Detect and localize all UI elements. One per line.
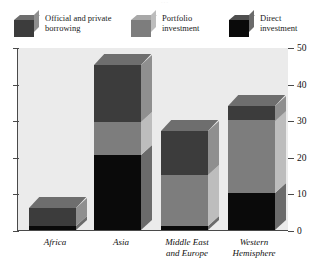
y-tick-40 — [13, 85, 19, 86]
bar-segment-portfolio-investment — [228, 120, 275, 193]
x-axis-label-western-hemisphere: Western Hemisphere — [213, 237, 295, 258]
y-axis-label-30: 30 — [297, 116, 307, 126]
y-tick-30 — [13, 121, 19, 122]
y-tick-0 — [288, 231, 294, 232]
bar-segment-direct-investment — [228, 193, 275, 230]
figure-title: … — [0, 0, 329, 4]
plot-area — [17, 48, 288, 231]
y-tick-30 — [288, 121, 294, 122]
chart-legend: Official and private borrowing Portfolio… — [0, 12, 329, 42]
y-tick-40 — [288, 85, 294, 86]
legend-item-official-private-borrowing[interactable]: Official and private borrowing — [14, 12, 111, 37]
bar-western-hemisphere[interactable] — [228, 106, 275, 230]
legend-label: Official and private borrowing — [45, 14, 111, 33]
y-axis-label-40: 40 — [297, 80, 307, 90]
legend-swatch-cube-icon — [131, 15, 157, 37]
y-tick-20 — [288, 158, 294, 159]
bar-africa[interactable] — [29, 208, 76, 230]
bar-segment-official-private-borrowing — [29, 208, 76, 226]
legend-item-direct-investment[interactable]: Direct investment — [229, 12, 297, 37]
y-axis-label-0: 0 — [297, 226, 302, 236]
y-axis-label-20: 20 — [297, 153, 307, 163]
y-tick-20 — [13, 158, 19, 159]
y-tick-10 — [288, 194, 294, 195]
legend-swatch-cube-icon — [14, 15, 40, 37]
bar-segment-official-private-borrowing — [228, 106, 275, 121]
bar-segment-portfolio-investment — [161, 175, 208, 226]
bar-segment-direct-investment — [161, 226, 208, 230]
bar-segment-direct-investment — [94, 155, 141, 230]
y-axis-label-50: 50 — [297, 43, 307, 53]
legend-label: Direct investment — [260, 14, 297, 33]
bar-segment-official-private-borrowing — [161, 131, 208, 175]
legend-swatch-cube-icon — [229, 15, 255, 37]
y-tick-50 — [13, 48, 19, 49]
legend-item-portfolio-investment[interactable]: Portfolio investment — [131, 12, 199, 37]
bar-segment-direct-investment — [29, 226, 76, 230]
bar-segment-portfolio-investment — [94, 122, 141, 155]
bar-segment-official-private-borrowing — [94, 65, 141, 122]
bar-asia[interactable] — [94, 65, 141, 230]
y-tick-10 — [13, 194, 19, 195]
y-tick-0 — [13, 231, 19, 232]
y-axis-label-10: 10 — [297, 189, 307, 199]
bar-middle-east-and-europe[interactable] — [161, 131, 208, 230]
figure: … Official and private borrowing Portfol… — [0, 0, 329, 264]
y-tick-50 — [288, 48, 294, 49]
legend-label: Portfolio investment — [162, 14, 199, 33]
